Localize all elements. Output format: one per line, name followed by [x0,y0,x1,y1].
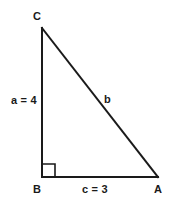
side-label-c: c = 3 [82,184,108,195]
side-label-b: b [104,94,111,105]
triangle-side-b-line [42,28,158,177]
vertex-label-a: A [154,184,162,195]
right-triangle-diagram: C B A a = 4 b c = 3 [0,0,171,209]
right-angle-marker-icon [42,164,55,177]
side-label-a: a = 4 [11,95,37,106]
vertex-label-c: C [33,11,41,22]
vertex-label-b: B [33,184,41,195]
